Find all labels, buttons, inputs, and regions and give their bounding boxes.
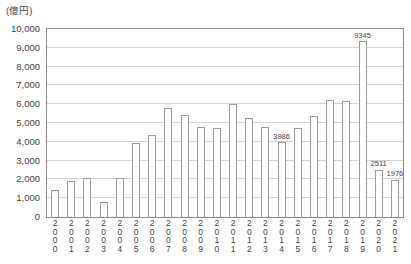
x-axis-tick-label: 2005 [134,219,139,253]
y-axis-tick-label: 9,000 [16,43,40,53]
bar-value-label: 9345 [354,32,371,40]
x-axis-tick-label: 2006 [150,219,155,253]
bar [278,142,286,217]
y-axis-unit-caption: (億円) [6,3,32,17]
bar [261,127,269,217]
x-axis-tick-label: 2009 [198,219,203,253]
bar-value-label: 2511 [371,160,387,168]
y-axis: 01,0002,0003,0004,0005,0006,0007,0008,00… [0,28,44,218]
bar-chart: (億円) 01,0002,0003,0004,0005,0006,0007,00… [0,0,411,264]
bar [132,143,140,217]
bar-value-label: 3986 [273,133,290,141]
x-axis-tick-label: 2003 [101,219,106,253]
bar [164,108,172,217]
bar-series: 3986934525111976 [47,29,403,217]
x-axis-tick-label: 2010 [215,219,220,253]
bar [391,180,399,217]
bar [375,170,383,217]
y-axis-tick-label: 0 [35,212,40,222]
bar-value-label: 1976 [387,170,404,178]
y-axis-tick-label: 6,000 [16,99,40,109]
y-axis-tick-label: 3,000 [16,156,40,166]
x-axis-tick-label: 2013 [263,219,268,253]
bar [359,41,367,217]
x-axis-tick-label: 2001 [69,219,74,253]
bar [83,178,91,217]
bar [51,190,59,217]
x-axis-tick-label: 2015 [295,219,300,253]
x-axis-tick-label: 2018 [344,219,349,253]
bar [116,178,124,217]
x-axis-tick-label: 2014 [279,219,284,253]
bar [310,116,318,217]
bar [213,128,221,217]
x-axis-tick-label: 2020 [376,219,381,253]
bar [342,101,350,217]
bar [100,202,108,217]
plot-area: 3986934525111976 [46,28,404,218]
y-axis-tick-label: 10,000 [11,24,40,34]
y-axis-tick-label: 2,000 [16,175,40,185]
bar [245,118,253,217]
y-axis-tick-label: 4,000 [16,137,40,147]
x-axis-tick-label: 2017 [328,219,333,253]
x-axis-tick-label: 2012 [247,219,252,253]
y-axis-tick-label: 5,000 [16,118,40,128]
x-axis-tick-label: 2008 [182,219,187,253]
x-axis: 2000200120022003200420052006200720082009… [46,219,404,263]
bar [67,181,75,217]
y-axis-tick-label: 1,000 [16,193,40,203]
bar [229,104,237,217]
x-axis-tick-label: 2004 [117,219,122,253]
y-axis-tick-label: 8,000 [16,62,40,72]
bar [326,100,334,217]
x-axis-tick-label: 2016 [312,219,317,253]
bar [294,128,302,217]
x-axis-tick-label: 2000 [53,219,58,253]
x-axis-tick-label: 2007 [166,219,171,253]
y-axis-tick-label: 7,000 [16,81,40,91]
bar [148,135,156,217]
x-axis-tick-label: 2021 [393,219,398,253]
x-axis-tick-label: 2011 [231,219,236,253]
x-axis-tick-label: 2019 [360,219,365,253]
bar [197,127,205,217]
x-axis-tick-label: 2002 [85,219,90,253]
bar [181,115,189,217]
